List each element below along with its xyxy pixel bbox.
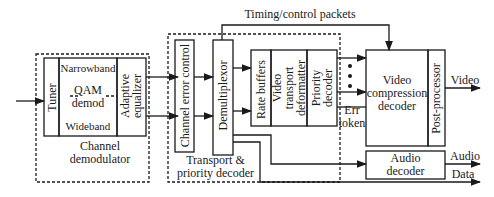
err-token-label: Err token <box>337 104 367 130</box>
rate-buffers-block: Rate buffers <box>254 55 269 125</box>
priority-decoder-block: Priority decoder <box>310 53 334 123</box>
channel-demodulator-label: Channel demodulator <box>60 140 140 166</box>
video-output-label: Video <box>448 74 482 87</box>
video-transport-deformatter-block: Video transport deformatter <box>271 53 307 123</box>
qam-demod-label: QAM demod <box>59 84 117 110</box>
audio-output-label: Audio <box>448 150 482 163</box>
channel-error-control-block: Channel error control <box>178 41 193 151</box>
post-processor-block: Post-processor <box>429 59 444 139</box>
tuner-block: Tuner <box>45 68 60 128</box>
timing-control-label: Timing/control packets <box>225 8 375 21</box>
data-output-label: Data <box>448 168 478 181</box>
video-compression-decoder-block: Video compression decoder <box>366 74 428 113</box>
transport-priority-decoder-label: Transport & priority decoder <box>168 154 263 180</box>
adaptive-equalizer-block: Adaptive equalizer <box>119 67 143 125</box>
demultiplexor-block: Demultiplexor <box>216 46 231 146</box>
narrowband-label: Narrowband <box>59 62 117 75</box>
wideband-label: Wideband <box>59 120 117 133</box>
audio-decoder-block: Audio decoder <box>366 152 445 178</box>
